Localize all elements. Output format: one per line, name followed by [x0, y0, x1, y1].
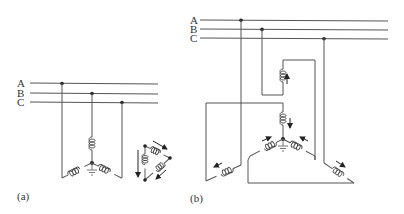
- coil-icon: [263, 140, 277, 151]
- bus-a-lines: [30, 83, 158, 103]
- panel-b: A B C: [190, 14, 388, 205]
- node-dot: [143, 178, 147, 182]
- coil-icon: [149, 146, 161, 156]
- coil-icon: [97, 164, 111, 175]
- coil-icon: [142, 154, 148, 165]
- current-arrow-icon: [300, 137, 308, 141]
- coil-icon: [220, 166, 234, 177]
- coil-icon: [331, 166, 345, 178]
- diagram-canvas: A B C: [0, 0, 404, 214]
- current-arrow-icon: [214, 163, 222, 167]
- coil-icon: [89, 137, 95, 150]
- current-arrow-icon: [336, 161, 345, 167]
- delta-equivalent: [138, 141, 172, 182]
- coil-icon: [67, 166, 81, 177]
- coil-icon: [280, 69, 286, 82]
- panel-a: A B C: [17, 77, 172, 203]
- node-dot: [143, 144, 147, 148]
- current-arrow-icon: [262, 137, 271, 141]
- bus-b-lines: [200, 20, 388, 39]
- bus-label-c: C: [190, 32, 197, 44]
- coil-icon: [280, 112, 286, 125]
- caption-a: (a): [17, 190, 30, 203]
- coil-icon: [289, 140, 303, 151]
- node-dot: [168, 156, 172, 160]
- caption-b: (b): [190, 192, 203, 205]
- bus-label-c: C: [17, 96, 24, 108]
